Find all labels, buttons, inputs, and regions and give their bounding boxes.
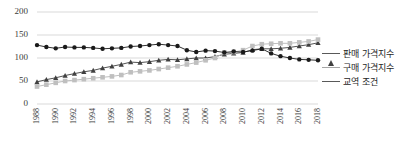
legend-item-1[interactable]: 구매 가격지수: [322, 60, 394, 74]
y-tick-label: 150: [2, 30, 28, 39]
y-tick-label: 100: [2, 53, 28, 62]
data-point: [203, 58, 208, 63]
data-point: [269, 41, 274, 46]
data-point: [297, 57, 301, 61]
data-point: [166, 65, 171, 70]
x-tick-label: 2008: [220, 108, 228, 124]
x-tick-label: 2004: [183, 108, 191, 124]
legend-label: 교역 조건: [343, 75, 378, 88]
data-point: [194, 60, 199, 65]
data-point: [175, 64, 180, 69]
x-tick-label: 1994: [89, 108, 97, 124]
x-tick-label: 2002: [164, 108, 172, 124]
legend-label: 구매 가격지수: [343, 61, 394, 74]
x-tick-label: 2000: [145, 108, 153, 124]
legend-marker-triangle-icon: [322, 48, 340, 58]
data-point: [110, 74, 115, 79]
legend-label: 판매 가격지수: [343, 47, 394, 60]
data-point: [72, 45, 76, 49]
data-point: [288, 41, 293, 46]
data-point: [138, 44, 142, 48]
data-point: [156, 67, 161, 72]
data-point: [316, 58, 320, 62]
chart-legend: 판매 가격지수구매 가격지수교역 조건: [322, 46, 394, 88]
data-point: [91, 46, 95, 50]
x-tick-label: 1998: [127, 108, 135, 124]
data-point: [185, 62, 190, 67]
data-point: [288, 56, 292, 60]
data-point: [250, 48, 254, 52]
data-point: [100, 75, 105, 80]
x-tick-label: 1992: [70, 108, 78, 124]
data-point: [213, 56, 218, 61]
data-point: [306, 39, 311, 44]
data-point: [119, 73, 124, 78]
data-point: [54, 46, 58, 50]
data-point: [63, 79, 68, 84]
data-point: [35, 84, 40, 89]
data-point: [232, 49, 236, 53]
data-point: [82, 45, 86, 49]
data-point: [278, 41, 283, 46]
data-point: [35, 43, 39, 47]
data-point: [72, 78, 77, 83]
data-point: [260, 42, 265, 47]
x-tick-label: 2016: [295, 108, 303, 124]
data-point: [44, 45, 48, 49]
data-point: [185, 48, 189, 52]
data-point: [316, 37, 321, 42]
data-point: [119, 46, 123, 50]
data-point: [147, 43, 151, 47]
data-point: [175, 44, 179, 48]
data-point: [278, 54, 282, 58]
data-point: [250, 44, 255, 49]
x-tick-label: 1996: [108, 108, 116, 124]
data-point: [222, 50, 226, 54]
y-tick-label: 200: [2, 7, 28, 16]
data-point: [91, 76, 96, 81]
data-point: [44, 82, 49, 87]
legend-marker-square-icon: [322, 62, 340, 72]
data-point: [110, 46, 114, 50]
x-tick-label: 2014: [277, 108, 285, 124]
data-point: [241, 50, 245, 54]
data-point: [138, 69, 143, 74]
y-tick-label: 0: [2, 99, 28, 108]
data-point: [100, 47, 104, 51]
x-tick-label: 2010: [239, 108, 247, 124]
data-point: [128, 44, 132, 48]
data-point: [63, 45, 67, 49]
x-tick-label: 2012: [258, 108, 266, 124]
data-point: [297, 40, 302, 45]
series-line: [37, 43, 318, 82]
chart-container: 050100150200 198819901992199419961998200…: [0, 0, 406, 150]
legend-item-0[interactable]: 판매 가격지수: [322, 46, 394, 60]
legend-marker-circle-icon: [322, 76, 340, 86]
data-point: [157, 42, 161, 46]
data-point: [53, 81, 58, 86]
data-point: [82, 77, 87, 82]
data-point: [128, 70, 133, 75]
x-tick-label: 1988: [33, 108, 41, 124]
data-point: [147, 68, 152, 73]
x-tick-label: 1990: [52, 108, 60, 124]
x-tick-label: 2018: [314, 108, 322, 124]
data-point: [194, 50, 198, 54]
legend-item-2[interactable]: 교역 조건: [322, 74, 394, 88]
data-point: [269, 51, 273, 55]
data-point: [260, 47, 264, 51]
data-point: [203, 48, 207, 52]
y-tick-label: 50: [2, 76, 28, 85]
data-point: [213, 49, 217, 53]
data-point: [166, 43, 170, 47]
x-tick-label: 2006: [202, 108, 210, 124]
data-point: [306, 58, 310, 62]
